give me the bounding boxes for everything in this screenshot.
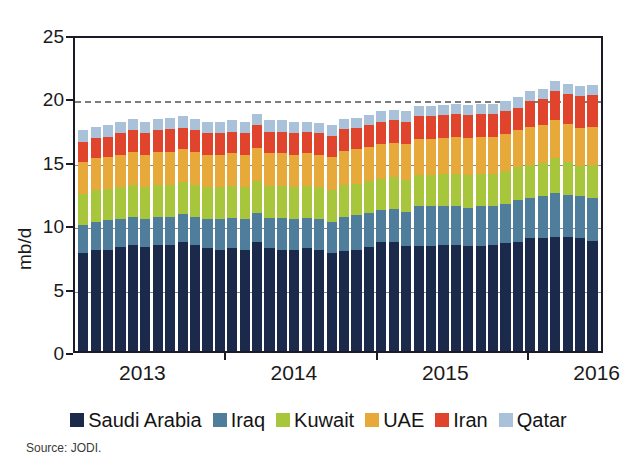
bar-segment-uae xyxy=(202,155,212,188)
bar-apr-2016 xyxy=(563,38,573,351)
bar-segment-kuwait xyxy=(178,182,188,214)
chart-legend: Saudi ArabiaIraqKuwaitUAEIranQatar xyxy=(0,410,637,430)
bar-segment-iraq xyxy=(190,217,200,245)
y-tick-label-10: 10 xyxy=(43,217,64,236)
bar-segment-iran xyxy=(103,137,113,157)
bar-segment-iran xyxy=(401,122,411,145)
bar-segment-qatar xyxy=(153,119,163,130)
legend-swatch-icon xyxy=(365,413,379,427)
bar-segment-uae xyxy=(140,155,150,188)
bar-feb-2016 xyxy=(538,38,548,351)
y-tick-label-20: 20 xyxy=(43,90,64,109)
plot-area xyxy=(73,36,603,353)
legend-item-uae[interactable]: UAE xyxy=(365,410,424,430)
bar-segment-kuwait xyxy=(277,186,287,218)
bar-segment-iraq xyxy=(525,198,535,239)
bar-segment-kuwait xyxy=(227,186,237,218)
bar-jan-2015 xyxy=(376,38,386,351)
bar-segment-iraq xyxy=(351,215,361,249)
bar-segment-iraq xyxy=(376,210,386,242)
bar-segment-uae xyxy=(575,128,585,166)
bar-segment-uae xyxy=(252,148,262,181)
bar-segment-kuwait xyxy=(451,174,461,207)
bar-segment-kuwait xyxy=(190,185,200,217)
y-tick-mark-10 xyxy=(66,226,73,228)
bar-segment-iran xyxy=(91,138,101,158)
legend-item-iraq[interactable]: Iraq xyxy=(213,410,265,430)
x-tick-mark-2014 xyxy=(224,353,226,360)
bar-segment-uae xyxy=(153,152,163,185)
bar-segment-kuwait xyxy=(476,174,486,207)
bar-segment-kuwait xyxy=(488,174,498,207)
bar-segment-saudi-arabia xyxy=(264,248,274,351)
bar-segment-kuwait xyxy=(314,187,324,219)
bar-segment-qatar xyxy=(202,122,212,133)
bar-segment-qatar xyxy=(525,91,535,101)
y-axis-title: mb/d xyxy=(14,228,36,270)
bar-segment-iran xyxy=(339,129,349,151)
bar-segment-kuwait xyxy=(426,175,436,207)
bar-segment-qatar xyxy=(351,118,361,128)
bar-segment-qatar xyxy=(240,122,250,133)
legend-label: UAE xyxy=(383,410,424,430)
bar-segment-uae xyxy=(587,127,597,165)
bar-segment-iraq xyxy=(476,206,486,245)
y-tick-mark-5 xyxy=(66,290,73,292)
bar-segment-kuwait xyxy=(414,175,424,207)
bar-segment-saudi-arabia xyxy=(414,246,424,351)
bar-segment-uae xyxy=(302,153,312,186)
bar-segment-qatar xyxy=(401,111,411,121)
bar-jul-2013 xyxy=(153,38,163,351)
legend-item-qatar[interactable]: Qatar xyxy=(499,410,567,430)
legend-item-saudi-arabia[interactable]: Saudi Arabia xyxy=(70,410,201,430)
bar-segment-kuwait xyxy=(575,166,585,196)
bar-jan-2013 xyxy=(78,38,88,351)
x-tick-label-2016: 2016 xyxy=(573,361,620,385)
bar-segment-kuwait xyxy=(215,187,225,219)
bar-aug-2013 xyxy=(165,38,175,351)
bar-segment-saudi-arabia xyxy=(215,250,225,351)
bar-segment-saudi-arabia xyxy=(426,246,436,351)
bar-segment-uae xyxy=(426,139,436,175)
bar-segment-iran xyxy=(575,96,585,128)
bar-segment-iraq xyxy=(389,209,399,242)
bar-segment-saudi-arabia xyxy=(463,246,473,351)
bar-segment-kuwait xyxy=(302,186,312,218)
bar-segment-iran xyxy=(414,116,424,139)
bar-segment-saudi-arabia xyxy=(525,238,535,351)
bar-segment-qatar xyxy=(364,115,374,125)
bar-segment-iraq xyxy=(103,220,113,249)
bar-segment-iran xyxy=(153,130,163,152)
bar-jul-2014 xyxy=(302,38,312,351)
bar-segment-qatar xyxy=(538,89,548,99)
bar-apr-2013 xyxy=(115,38,125,351)
bar-segment-saudi-arabia xyxy=(289,250,299,351)
bar-segment-iraq xyxy=(438,206,448,244)
chart-figure: 0510152025 mb/d 2013201420152016 Saudi A… xyxy=(0,0,637,473)
bar-segment-qatar xyxy=(91,127,101,138)
bar-segment-iran xyxy=(227,132,237,154)
bar-segment-kuwait xyxy=(240,187,250,219)
bar-segment-qatar xyxy=(227,120,237,131)
legend-item-kuwait[interactable]: Kuwait xyxy=(276,410,354,430)
bar-segment-saudi-arabia xyxy=(128,245,138,352)
bar-segment-iran xyxy=(476,114,486,137)
bar-segment-qatar xyxy=(78,130,88,141)
bar-segment-kuwait xyxy=(401,180,411,212)
bar-segment-uae xyxy=(178,149,188,182)
legend-label: Saudi Arabia xyxy=(88,410,201,430)
bar-segment-saudi-arabia xyxy=(190,245,200,352)
bar-segment-qatar xyxy=(587,85,597,95)
bar-segment-iran xyxy=(252,125,262,148)
bar-segment-kuwait xyxy=(376,179,386,211)
legend-item-iran[interactable]: Iran xyxy=(435,410,487,430)
bar-segment-saudi-arabia xyxy=(538,238,548,351)
bar-segment-saudi-arabia xyxy=(327,253,337,351)
bar-segment-iran xyxy=(438,115,448,138)
bar-segment-uae xyxy=(215,155,225,188)
y-tick-mark-15 xyxy=(66,163,73,165)
bar-dec-2015 xyxy=(513,38,523,351)
bar-segment-qatar xyxy=(451,104,461,114)
bar-segment-iraq xyxy=(227,218,237,248)
bar-segment-kuwait xyxy=(538,163,548,196)
